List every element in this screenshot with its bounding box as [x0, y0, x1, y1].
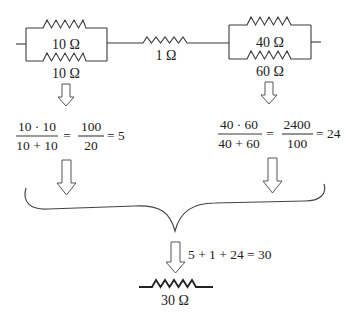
resistor-40-ohm-label: 40 Ω	[256, 35, 284, 50]
down-arrow-right-bottom-icon	[263, 158, 282, 193]
equivalent-resistance-diagram: 10 Ω 10 Ω 1 Ω 40 Ω 60 Ω 10 · 10 10 + 10 …	[0, 0, 353, 321]
resistor-10-ohm-top-label: 10 Ω	[52, 37, 80, 52]
left-equals-sign: =	[63, 128, 71, 143]
down-arrow-left-top-icon	[58, 84, 74, 106]
left-fraction-denominator: 10 + 10	[16, 138, 58, 153]
resistor-10-ohm-bottom	[26, 53, 107, 61]
right-parallel-block: 40 Ω 60 Ω	[229, 17, 321, 79]
resistor-10-ohm-top	[26, 20, 107, 28]
resistor-30-ohm	[139, 280, 213, 287]
resistor-1-ohm	[107, 37, 229, 43]
resistor-40-ohm	[229, 17, 311, 25]
left-parallel-calculation: 10 · 10 10 + 10 = 100 20 = 5	[16, 119, 125, 153]
resistor-1-ohm-label: 1 Ω	[156, 48, 177, 63]
resistor-30-ohm-label: 30 Ω	[161, 293, 189, 308]
left-result-denominator: 20	[84, 138, 98, 153]
left-fraction-numerator: 10 · 10	[18, 119, 56, 134]
resistor-60-ohm-label: 60 Ω	[256, 64, 284, 79]
right-result-denominator: 100	[287, 136, 308, 151]
right-fraction-numerator: 40 · 60	[220, 117, 258, 132]
right-equals-sign: =	[266, 126, 274, 141]
series-sum-equation: 5 + 1 + 24 = 30	[188, 247, 272, 262]
down-arrow-left-bottom-icon	[57, 160, 76, 195]
down-arrow-final-icon	[166, 242, 185, 273]
right-result-numerator: 2400	[284, 117, 311, 132]
left-result-value: = 5	[107, 128, 125, 143]
right-parallel-calculation: 40 · 60 40 + 60 = 2400 100 = 24	[218, 117, 341, 151]
resistor-60-ohm	[229, 51, 311, 59]
resistor-10-ohm-bottom-label: 10 Ω	[52, 66, 80, 81]
equivalent-resistor: 30 Ω	[139, 280, 213, 308]
left-result-numerator: 100	[81, 119, 102, 134]
right-fraction-denominator: 40 + 60	[218, 136, 260, 151]
series-resistor: 1 Ω	[107, 37, 229, 63]
right-result-value: = 24	[316, 126, 341, 141]
left-parallel-block: 10 Ω 10 Ω	[16, 20, 107, 81]
down-arrow-right-top-icon	[261, 82, 277, 104]
